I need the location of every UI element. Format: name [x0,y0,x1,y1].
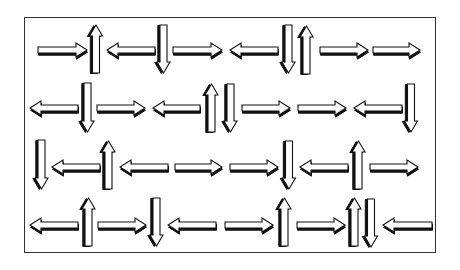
arrow-up-icon [276,198,291,247]
arrow-left-icon [30,218,79,234]
arrow-up-icon [298,26,313,75]
arrow-right-icon [175,160,223,176]
arrow-right-icon [370,160,419,176]
arrow-right-icon [38,43,88,59]
arrow-up-icon [350,141,365,190]
arrow-left-icon [168,218,217,234]
arrow-down-icon [362,199,377,248]
arrow-up-icon [87,25,102,74]
arrow-up-icon [203,84,218,133]
arrow-left-icon [383,218,433,234]
arrow-down-icon [222,84,237,133]
arrow-down-icon [79,83,94,133]
arrow-up-icon [100,141,115,190]
arrow-left-icon [300,160,349,176]
arrow-down-icon [402,84,417,133]
arrow-left-icon [354,101,403,117]
arrow-up-icon [80,198,95,247]
arrow-right-icon [242,101,291,117]
arrow-right-icon [298,101,347,117]
arrow-right-icon [373,43,421,59]
arrow-left-icon [30,101,79,117]
arrow-right-icon [97,101,146,117]
arrow-down-icon [155,25,170,74]
arrow-down-icon [33,140,48,190]
arrow-left-icon [52,160,101,176]
arrow-left-icon [230,43,279,59]
arrow-down-icon [280,25,295,74]
arrow-right-icon [320,43,369,59]
arrow-right-icon [173,43,223,59]
arrow-right-icon [297,218,346,234]
arrow-right-icon [98,218,147,234]
arrow-left-icon [120,160,169,176]
arrow-right-icon [230,160,279,176]
arrow-down-icon [148,198,163,247]
arrow-up-icon [346,198,361,247]
arrow-grid [0,0,460,270]
arrow-left-icon [153,101,201,117]
arrow-down-icon [280,141,295,190]
arrow-left-icon [107,43,156,59]
arrow-right-icon [225,218,274,234]
